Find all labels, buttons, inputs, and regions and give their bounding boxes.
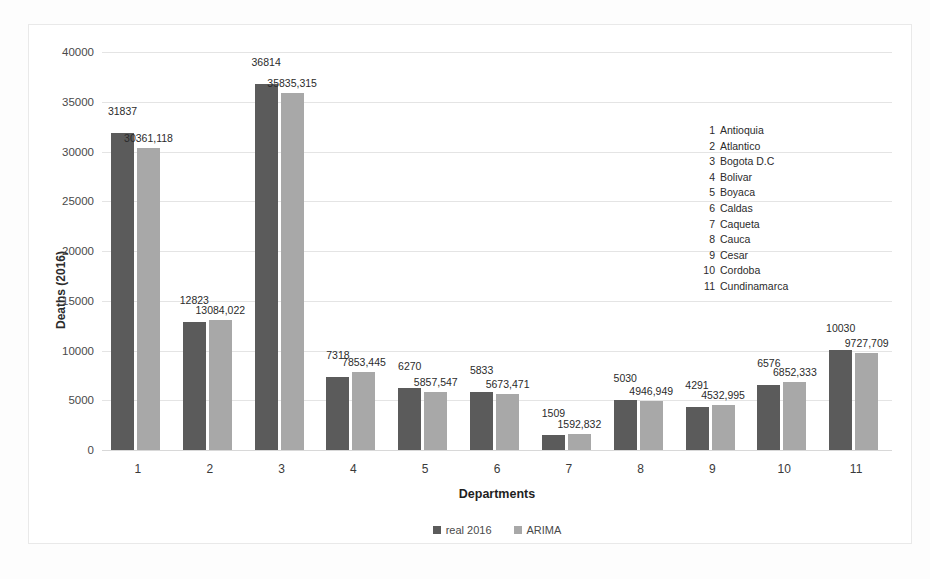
y-tick-label: 25000 [24,195,94,207]
bar-real-2016[interactable] [686,407,709,450]
bar-group: 62705857,547 [389,52,461,450]
bar-arima[interactable] [209,320,232,450]
department-key-row: 11Cundinamarca [700,279,840,295]
department-name: Bogota D.C [720,154,774,170]
bar-value-label: 4946,949 [629,385,673,397]
department-name: Bolivar [720,170,752,186]
y-tick-label: 0 [24,444,94,456]
department-key-row: 5Boyaca [700,185,840,201]
bar-value-label: 36814 [252,56,281,68]
department-number: 11 [700,279,715,295]
x-tick-label: 6 [494,462,501,476]
bar-arima[interactable] [496,394,519,450]
bar-real-2016[interactable] [829,350,852,450]
x-tick-label: 10 [778,462,791,476]
x-tick-label: 9 [709,462,716,476]
bar-group: 50304946,949 [605,52,677,450]
bar-value-label: 6270 [398,360,421,372]
bar-arima[interactable] [712,405,735,450]
department-name: Cundinamarca [720,279,788,295]
y-tick-label: 40000 [24,46,94,58]
department-number: 8 [700,232,715,248]
bar-value-label: 5030 [614,372,637,384]
y-tick-label: 15000 [24,295,94,307]
bar-real-2016[interactable] [326,377,349,450]
department-key-row: 7Caqueta [700,217,840,233]
y-tick-label: 35000 [24,96,94,108]
x-tick-label: 11 [850,462,862,476]
bar-value-label: 5673,471 [486,378,530,390]
bar-real-2016[interactable] [757,385,780,450]
department-number: 10 [700,263,715,279]
department-name: Boyaca [720,185,755,201]
department-key-row: 1Antioquia [700,123,840,139]
bar-value-label: 4532,995 [701,389,745,401]
series-legend: real 2016ARIMA [102,524,892,536]
bar-real-2016[interactable] [111,133,134,450]
legend-label: ARIMA [527,524,562,536]
bar-arima[interactable] [640,401,663,450]
gridline [102,450,892,451]
bar-real-2016[interactable] [183,322,206,450]
legend-entry[interactable]: real 2016 [433,524,492,536]
x-tick-label: 2 [206,462,213,476]
bar-value-label: 9727,709 [845,337,889,349]
department-number: 6 [700,201,715,217]
department-key-row: 10Cordoba [700,263,840,279]
bar-group: 1282313084,022 [174,52,246,450]
legend-entry[interactable]: ARIMA [514,524,562,536]
bar-arima[interactable] [352,372,375,450]
bar-value-label: 7853,445 [342,356,386,368]
bar-real-2016[interactable] [614,400,637,450]
x-tick-label: 1 [135,462,142,476]
y-tick-label: 30000 [24,146,94,158]
bar-value-label: 13084,022 [195,304,245,316]
department-name: Cesar [720,248,748,264]
bar-real-2016[interactable] [542,435,565,450]
bar-real-2016[interactable] [398,388,421,450]
department-name: Caqueta [720,217,760,233]
bar-arima[interactable] [424,392,447,450]
department-number: 3 [700,154,715,170]
legend-label: real 2016 [446,524,492,536]
bar-arima[interactable] [855,353,878,450]
bar-arima[interactable] [783,382,806,450]
x-axis-title: Departments [102,487,892,501]
department-number: 2 [700,139,715,155]
department-number: 5 [700,185,715,201]
department-key-row: 8Cauca [700,232,840,248]
bar-value-label: 5833 [470,364,493,376]
bar-value-label: 30361,118 [124,132,173,144]
bar-arima[interactable] [568,434,591,450]
department-key-row: 6Caldas [700,201,840,217]
bar-arima[interactable] [281,93,304,450]
bar-group: 58335673,471 [461,52,533,450]
bar-value-label: 10030 [826,322,855,334]
x-tick-label: 7 [565,462,572,476]
department-number: 7 [700,217,715,233]
bar-group: 73187853,445 [317,52,389,450]
department-name: Cordoba [720,263,760,279]
bar-value-label: 6852,333 [773,366,817,378]
x-tick-label: 4 [350,462,357,476]
bar-real-2016[interactable] [255,84,278,450]
department-key-row: 2Atlantico [700,139,840,155]
department-name: Atlantico [720,139,760,155]
department-key-legend: 1Antioquia2Atlantico3Bogota D.C4Bolivar5… [700,123,840,295]
y-axis-title: Deaths (2016) [54,250,68,328]
department-number: 4 [700,170,715,186]
bar-arima[interactable] [137,148,160,450]
department-name: Caldas [720,201,753,217]
x-tick-label: 3 [278,462,285,476]
bar-group: 15091592,832 [533,52,605,450]
y-tick-label: 5000 [24,394,94,406]
y-tick-label: 20000 [24,245,94,257]
bar-value-label: 35835,315 [267,77,317,89]
bar-value-label: 31837 [108,105,137,117]
legend-swatch-icon [433,526,441,534]
bar-real-2016[interactable] [470,392,493,450]
department-key-row: 9Cesar [700,248,840,264]
x-tick-label: 8 [637,462,644,476]
x-tick-label: 5 [422,462,429,476]
legend-swatch-icon [514,526,522,534]
